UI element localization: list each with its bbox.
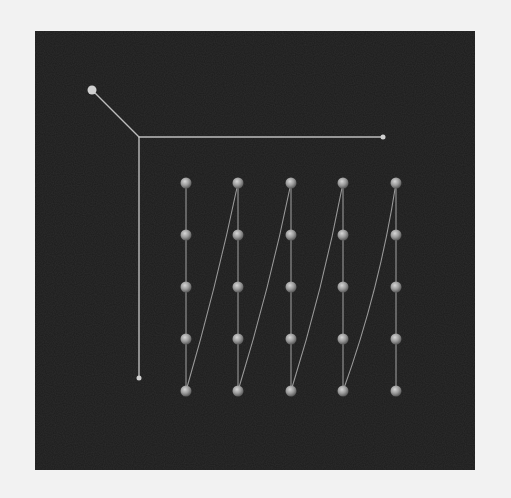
grid-sphere-node [338,282,349,293]
grid-traversal-diagram [0,0,511,498]
grid-sphere-node [338,178,349,189]
grid-sphere-node [338,386,349,397]
grid-sphere-node [181,386,192,397]
diagram-stage [0,0,511,498]
grid-sphere-node [181,282,192,293]
grid-sphere-node [338,230,349,241]
grid-sphere-node [391,178,402,189]
grid-sphere-node [286,178,297,189]
grid-sphere-node [286,334,297,345]
grid-sphere-node [233,230,244,241]
grid-sphere-node [233,386,244,397]
grid-sphere-node [286,230,297,241]
grid-sphere-node [391,282,402,293]
grid-sphere-node [286,386,297,397]
grid-sphere-node [181,178,192,189]
grid-sphere-node [181,334,192,345]
grid-sphere-node [391,386,402,397]
grid-sphere-node [233,178,244,189]
grid-sphere-node [286,282,297,293]
z-axis-tip-icon [88,86,97,95]
grid-sphere-node [338,334,349,345]
grid-sphere-node [233,334,244,345]
y-axis-tip-icon [137,376,142,381]
x-axis-tip-icon [381,135,386,140]
grid-sphere-node [391,230,402,241]
grid-sphere-node [181,230,192,241]
panel-noise-texture [35,31,475,470]
grid-sphere-node [233,282,244,293]
grid-sphere-node [391,334,402,345]
